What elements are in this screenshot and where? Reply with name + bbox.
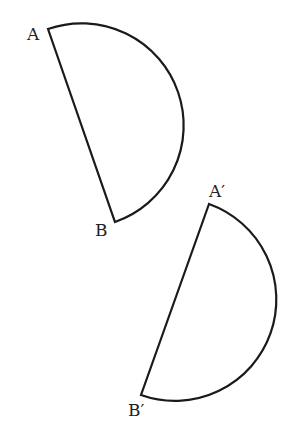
semicircle-a-prime-b-prime: A′ B′ (128, 181, 276, 420)
semicircle-ab: A B (26, 23, 184, 240)
label-b: B (95, 220, 108, 240)
diagram-canvas: A B A′ B′ (0, 0, 295, 447)
semicircle-ab-outline (48, 23, 184, 222)
semicircle-a-prime-b-prime-outline (141, 204, 276, 401)
label-a-prime: A′ (208, 181, 225, 201)
label-a: A (26, 24, 40, 44)
label-b-prime: B′ (128, 400, 144, 420)
